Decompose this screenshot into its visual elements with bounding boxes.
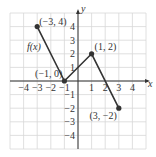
axes (10, 9, 150, 149)
x-tick-label: 3 (116, 82, 121, 93)
x-tick-label: −2 (45, 82, 56, 93)
y-tick-label: −3 (64, 116, 75, 127)
data-point (62, 78, 67, 83)
point-annotation: (1, 2) (95, 41, 117, 53)
point-annotation: (−3, 4) (39, 16, 66, 28)
y-axis-arrow-icon (76, 9, 80, 14)
y-tick-label: 3 (70, 35, 75, 46)
point-annotation: (−1, 0) (35, 68, 62, 80)
x-tick-label: 4 (130, 82, 135, 93)
x-axis-label: x (147, 78, 153, 89)
y-tick-label: −1 (64, 89, 75, 100)
x-tick-label: 1 (89, 82, 94, 93)
function-graph: −4−3−2−112344321−1−2−3−4 (−3, 4)(−1, 0)(… (0, 0, 156, 157)
point-annotation: (3, −2) (89, 110, 116, 122)
y-axis-label: y (80, 3, 86, 14)
data-point (89, 51, 94, 56)
x-tick-label: −4 (18, 82, 29, 93)
function-label: f(x) (27, 41, 42, 53)
y-tick-label: −2 (64, 103, 75, 114)
x-tick-label: −3 (32, 82, 43, 93)
y-tick-label: −4 (64, 130, 75, 141)
data-point (116, 106, 121, 111)
y-tick-label: 4 (70, 21, 75, 32)
y-tick-label: 2 (70, 48, 75, 59)
